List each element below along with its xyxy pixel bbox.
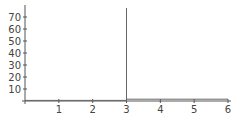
x-tick-label: 2 — [89, 104, 95, 115]
plot-area: 10203040506070 123456 — [0, 0, 243, 120]
y-tick-label: 20 — [8, 72, 21, 83]
y-tick-label: 60 — [8, 24, 21, 35]
x-tick-label: 5 — [191, 104, 197, 115]
y-tick-label: 50 — [8, 36, 21, 47]
x-tick-label: 3 — [123, 104, 129, 115]
y-tick-label: 40 — [8, 48, 21, 59]
x-tick-label: 4 — [157, 104, 163, 115]
y-tick-label: 10 — [8, 84, 21, 95]
series-line — [25, 8, 228, 100]
y-axis: 10203040506070 — [8, 5, 27, 104]
y-tick-label: 70 — [8, 12, 21, 23]
y-tick-label: 30 — [8, 60, 21, 71]
x-tick-label: 6 — [225, 104, 231, 115]
x-tick-label: 1 — [56, 104, 62, 115]
data-series — [25, 8, 228, 100]
x-axis: 123456 — [22, 99, 231, 115]
chart: 10203040506070 123456 — [0, 0, 243, 120]
